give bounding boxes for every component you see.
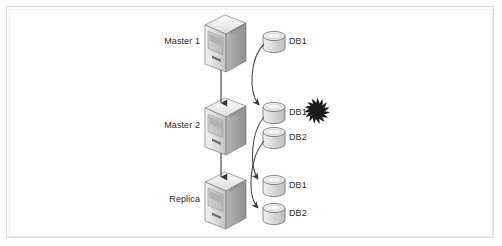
database-cylinder-icon-m1-db1 <box>263 31 285 52</box>
db-label-m1-db1: DB1 <box>289 36 307 47</box>
server-tower-icon-master1 <box>205 15 246 72</box>
database-cylinder-icon-m2-db2 <box>263 127 285 148</box>
db-label-m2-db2: DB2 <box>289 132 307 143</box>
database-cylinder-icon-m2-db1 <box>263 102 285 123</box>
explosion-burst-icon <box>304 98 331 124</box>
connector-m2db1-to-repdb1 <box>252 117 264 179</box>
db-label-m2-db1: DB1 <box>289 107 307 118</box>
server-tower-icon-master2 <box>205 98 246 155</box>
node-label-replica: Replica <box>138 194 200 205</box>
node-label-master2: Master 2 <box>138 120 200 131</box>
db-label-rep-db2: DB2 <box>289 208 307 219</box>
database-cylinder-icon-rep-db1 <box>263 175 285 196</box>
node-label-master1: Master 1 <box>138 36 200 47</box>
diagram-canvas <box>0 0 502 246</box>
db-label-rep-db1: DB1 <box>289 180 307 191</box>
server-tower-icon-replica <box>205 172 246 229</box>
diagram-figure: Master 1 Master 2 Replica DB1 DB1 DB2 DB… <box>0 0 502 246</box>
database-cylinder-icon-rep-db2 <box>263 203 285 224</box>
connector-m1db1-to-m2db1 <box>252 44 264 105</box>
